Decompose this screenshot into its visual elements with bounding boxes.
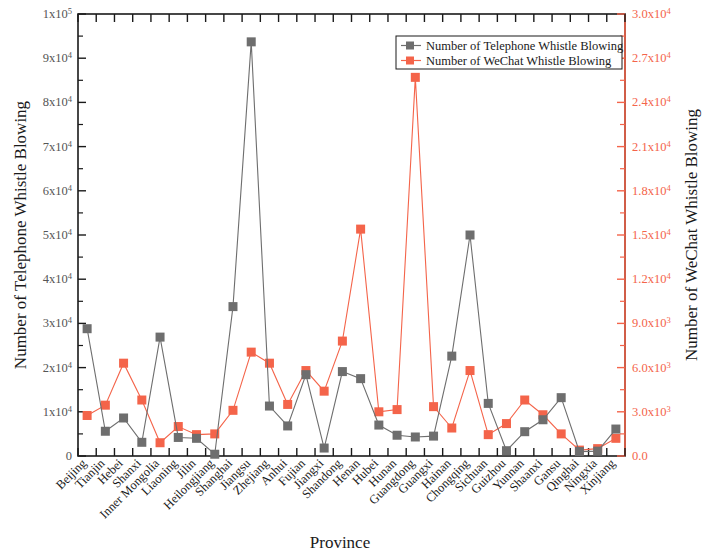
data-point-marker xyxy=(484,430,493,439)
axis-tick-label: 1.5x104 xyxy=(632,227,671,242)
data-point-marker xyxy=(228,302,237,311)
chart-svg: 01x1042x1043x1044x1045x1046x1047x1048x10… xyxy=(0,0,715,556)
axis-tick-label: 2.4x104 xyxy=(632,94,671,109)
axis-tick-label: 0 xyxy=(66,449,72,463)
axis-tick-label: 8x104 xyxy=(43,94,73,109)
bottom-axis-ticks xyxy=(78,448,625,456)
axis-tick-label: 4x104 xyxy=(43,271,73,286)
data-point-marker xyxy=(301,370,310,379)
data-point-marker xyxy=(502,419,511,428)
plot-frame xyxy=(78,14,625,456)
data-point-marker xyxy=(101,401,110,410)
data-point-marker xyxy=(356,225,365,234)
data-point-marker xyxy=(593,447,602,456)
legend-label-telephone: Number of Telephone Whistle Blowing xyxy=(426,39,624,53)
data-point-marker xyxy=(575,447,584,456)
x-axis-title: Province xyxy=(310,533,370,552)
axis-tick-label: 7x104 xyxy=(43,139,73,154)
data-point-marker xyxy=(447,352,456,361)
data-point-marker xyxy=(156,438,165,447)
data-point-marker xyxy=(283,421,292,430)
axis-tick-label: 6.0x103 xyxy=(632,360,671,375)
data-point-marker xyxy=(83,324,92,333)
axis-tick-label: 9x104 xyxy=(43,50,73,65)
data-point-marker xyxy=(320,444,329,453)
legend-label-wechat: Number of WeChat Whistle Blowing xyxy=(426,54,612,68)
left-axis-ticks xyxy=(78,14,86,456)
axis-tick-label: 1x104 xyxy=(43,404,73,419)
legend: Number of Telephone Whistle Blowing Numb… xyxy=(396,36,624,69)
data-point-marker xyxy=(137,396,146,405)
y2-axis-title: Number of WeChat Whistle Blowing xyxy=(682,108,701,361)
data-point-marker xyxy=(247,348,256,357)
data-point-marker xyxy=(156,333,165,342)
data-point-marker xyxy=(119,413,128,422)
y-axis-title: Number of Telephone Whistle Blowing xyxy=(11,100,30,369)
axis-tick-label: 2.7x104 xyxy=(632,50,671,65)
data-point-marker xyxy=(429,432,438,441)
right-axis-tick-labels: 0.03.0x1036.0x1039.0x1031.2x1041.5x1041.… xyxy=(632,6,671,463)
data-point-marker xyxy=(520,427,529,436)
axis-tick-label: 6x104 xyxy=(43,183,73,198)
data-point-marker xyxy=(393,405,402,414)
data-point-marker xyxy=(356,374,365,383)
data-point-marker xyxy=(338,367,347,376)
left-axis-tick-labels: 01x1042x1043x1044x1045x1046x1047x1048x10… xyxy=(43,6,73,463)
data-point-marker xyxy=(393,431,402,440)
axis-tick-label: 3x104 xyxy=(43,315,73,330)
data-point-marker xyxy=(83,411,92,420)
axis-tick-label: 2x104 xyxy=(43,360,73,375)
data-point-marker xyxy=(174,433,183,442)
data-point-marker xyxy=(210,450,219,459)
data-point-marker xyxy=(466,231,475,240)
data-point-marker xyxy=(447,424,456,433)
axis-tick-label: 9.0x103 xyxy=(632,315,671,330)
series-path xyxy=(87,77,616,450)
legend-marker-wechat xyxy=(406,57,414,65)
data-point-marker xyxy=(429,402,438,411)
axis-tick-label: 1.8x104 xyxy=(632,183,671,198)
data-point-marker xyxy=(374,421,383,430)
legend-marker-telephone xyxy=(406,42,414,50)
data-point-marker xyxy=(374,407,383,416)
data-point-marker xyxy=(484,399,493,408)
data-point-marker xyxy=(283,400,292,409)
data-point-marker xyxy=(466,366,475,375)
axis-tick-label: 5x104 xyxy=(43,227,73,242)
axis-tick-label: 0.0 xyxy=(632,449,648,463)
data-point-marker xyxy=(265,359,274,368)
data-point-marker xyxy=(119,359,128,368)
data-point-marker xyxy=(557,393,566,402)
data-point-marker xyxy=(538,415,547,424)
x-axis-category-labels: BeijingTianjinHebeiShanxiInner MongoliaL… xyxy=(53,456,618,522)
data-point-marker xyxy=(502,446,511,455)
right-axis-ticks xyxy=(617,14,625,456)
data-point-marker xyxy=(611,434,620,443)
data-point-marker xyxy=(338,337,347,346)
data-point-marker xyxy=(520,396,529,405)
series-telephone-line xyxy=(83,37,621,458)
axis-tick-label: 1.2x104 xyxy=(632,271,671,286)
data-point-marker xyxy=(192,434,201,443)
data-point-marker xyxy=(101,427,110,436)
axis-tick-label: 3.0x103 xyxy=(632,404,671,419)
top-axis-ticks xyxy=(78,14,625,22)
chart-figure: 01x1042x1043x1044x1045x1046x1047x1048x10… xyxy=(0,0,715,556)
axis-tick-label: 3.0x104 xyxy=(632,6,671,21)
data-point-marker xyxy=(174,422,183,431)
data-point-marker xyxy=(611,425,620,434)
data-point-marker xyxy=(265,402,274,411)
axis-tick-label: 2.1x104 xyxy=(632,139,671,154)
data-point-marker xyxy=(320,387,329,396)
series-wechat-line xyxy=(83,73,621,455)
data-point-marker xyxy=(247,37,256,46)
data-point-marker xyxy=(557,429,566,438)
data-point-marker xyxy=(411,73,420,82)
data-point-marker xyxy=(137,438,146,447)
series-path xyxy=(87,42,616,454)
data-point-marker xyxy=(228,406,237,415)
legend-entry-telephone: Number of Telephone Whistle Blowing xyxy=(401,39,624,53)
legend-entry-wechat: Number of WeChat Whistle Blowing xyxy=(401,54,612,68)
axis-tick-label: 1x105 xyxy=(43,6,72,21)
data-point-marker xyxy=(411,432,420,441)
